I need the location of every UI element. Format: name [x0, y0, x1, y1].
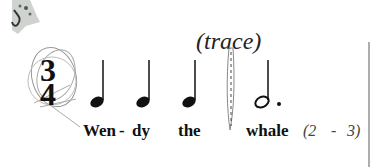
traced-barline	[227, 48, 234, 130]
dotted-half-note	[254, 60, 281, 109]
lyric-syllable: dy	[132, 121, 150, 141]
syllable-count-close: 3)	[347, 122, 360, 140]
syllable-count-open: (2	[303, 122, 316, 140]
quarter-note-2	[135, 60, 152, 109]
syllable-count-dash: -	[331, 122, 336, 140]
quarter-note-3	[181, 60, 198, 109]
lyric-syllable: the	[178, 121, 201, 141]
augmentation-dot	[277, 102, 281, 106]
quarter-note-1	[89, 60, 106, 109]
lyric-syllable: whale	[246, 121, 289, 141]
lyric-hyphen: -	[119, 121, 125, 141]
music-staff-notes	[0, 0, 386, 167]
lyric-syllable: Wen	[83, 121, 116, 141]
